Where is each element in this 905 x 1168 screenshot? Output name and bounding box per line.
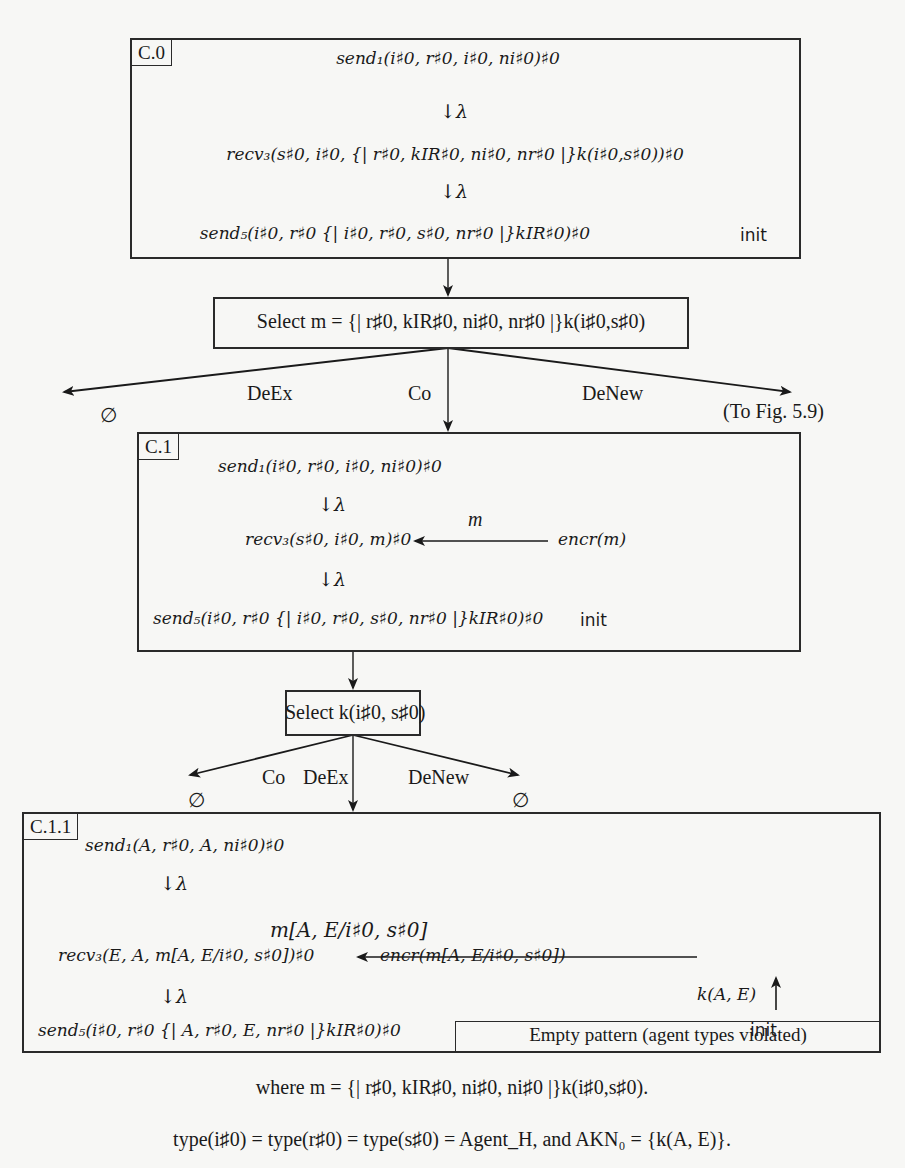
box-label-c1: C.1 <box>138 433 179 460</box>
c0-lambda-1: ↓λ <box>440 100 468 122</box>
c11-step-send5: send₅(i♯0, r♯0 {| A, r♯0, E, nr♯0 |}kIR♯… <box>38 1020 401 1040</box>
c1-step-send5: send₅(i♯0, r♯0 {| i♯0, r♯0, s♯0, nr♯0 |}… <box>153 608 543 628</box>
box-label-c11: C.1.1 <box>23 813 78 840</box>
branch1-to-fig-link[interactable]: (To Fig. 5.9) <box>723 400 824 423</box>
c11-key-label: k(A, E) <box>697 984 756 1004</box>
c1-step-send1: send₁(i♯0, r♯0, i♯0, ni♯0)♯0 <box>218 456 442 476</box>
caption-where-clause: where m = {| r♯0, kIR♯0, ni♯0, ni♯0 |}k(… <box>256 1076 648 1099</box>
branch2-co-label: Co <box>262 766 285 789</box>
c0-step-send5: send₅(i♯0, r♯0 {| i♯0, r♯0, s♯0, nr♯0 |}… <box>155 223 635 243</box>
c0-step-send1: send₁(i♯0, r♯0, i♯0, ni♯0)♯0 <box>336 48 560 68</box>
branch1-co-label: Co <box>408 382 431 405</box>
branch2-denew-label: DeNew <box>408 766 469 789</box>
c11-lambda-1: ↓λ <box>160 872 188 894</box>
c11-lambda-2: ↓λ <box>160 985 188 1007</box>
branch1-denew-label: DeNew <box>582 382 643 405</box>
select-k-text: Select k(i♯0, s♯0) <box>285 701 421 724</box>
c0-lambda-2: ↓λ <box>440 180 468 202</box>
caption-type-constraints: type(i♯0) = type(r♯0) = type(s♯0) = Agen… <box>173 1128 731 1151</box>
c0-init-label: init <box>740 225 767 245</box>
c1-lambda-1: ↓λ <box>318 493 346 515</box>
box-label-c0: C.0 <box>131 39 172 66</box>
c1-edge-label-m: m <box>468 508 482 531</box>
select-m-text: Select m = {| r♯0, kIR♯0, ni♯0, nr♯0 |}k… <box>213 310 689 333</box>
branch2-right-empty-result: ∅ <box>512 788 529 812</box>
branch1-deex-label: DeEx <box>247 382 293 405</box>
branch1-empty-result: ∅ <box>100 403 117 427</box>
c11-step-recv3: recv₃(E, A, m[A, E/i♯0, s♯0])♯0 <box>58 945 314 965</box>
empty-pattern-text: Empty pattern (agent types violated) <box>455 1024 881 1046</box>
c11-edge-label: m[A, E/i♯0, s♯0] <box>270 918 427 942</box>
branch2-deex-label: DeEx <box>303 766 349 789</box>
c11-step-send1: send₁(A, r♯0, A, ni♯0)♯0 <box>85 835 284 855</box>
c1-init-label: init <box>580 610 607 630</box>
c1-step-recv3: recv₃(s♯0, i♯0, m)♯0 <box>245 529 411 549</box>
c1-intruder-encr: encr(m) <box>558 529 626 549</box>
c11-intruder-encr: encr(m[A, E/i♯0, s♯0]) <box>380 945 566 965</box>
c0-step-recv3: recv₃(s♯0, i♯0, {| r♯0, kIR♯0, ni♯0, nr♯… <box>120 144 790 164</box>
branch2-left-empty-result: ∅ <box>188 788 205 812</box>
c1-lambda-2: ↓λ <box>318 568 346 590</box>
